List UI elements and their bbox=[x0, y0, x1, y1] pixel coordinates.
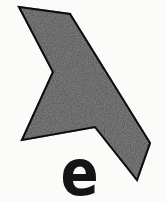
figure-stage: e bbox=[0, 0, 166, 202]
figure-label: e bbox=[0, 141, 160, 202]
figure-label-text: e bbox=[61, 141, 99, 202]
